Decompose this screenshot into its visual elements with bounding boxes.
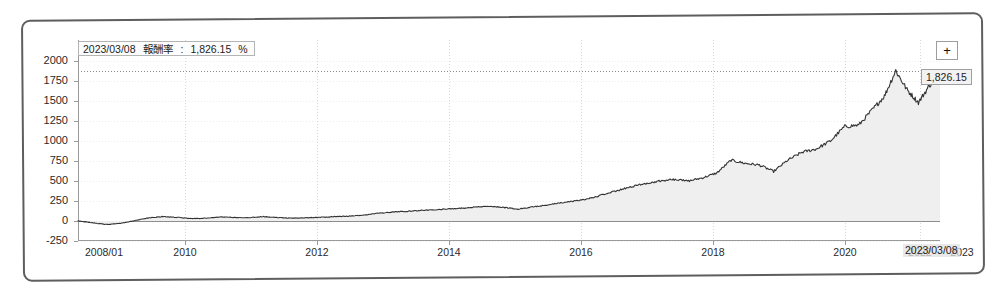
value-flag: 1,826.15 (921, 69, 972, 85)
xlabel-2012: 2012 (305, 246, 328, 258)
gridline-h-250 (78, 201, 940, 202)
ytick-750 (74, 161, 78, 162)
ylabel-2000: 2000 (28, 54, 68, 66)
xtick-2016 (581, 241, 582, 245)
xlabel-2016: 2016 (569, 246, 592, 258)
tooltip-separator: : (180, 43, 183, 56)
ylabel-1500: 1500 (28, 94, 68, 106)
gridline-h-1750 (78, 81, 940, 82)
expand-plus-icon[interactable]: + (936, 41, 958, 60)
ytick-1500 (74, 101, 78, 102)
ytick-1000 (74, 141, 78, 142)
tooltip-readout: 2023/03/08 報酬率 : 1,826.15 % (78, 41, 255, 56)
gridline-h-minus250 (78, 241, 940, 242)
gridline-h-500 (78, 181, 940, 182)
xlabel-2020: 2020 (833, 246, 856, 258)
ytick-250 (74, 201, 78, 202)
gridline-h-1000 (78, 141, 940, 142)
gridline-v-2020 (845, 40, 846, 240)
ylabel-0: 0 (28, 214, 68, 226)
ytick-2000 (74, 61, 78, 62)
ytick-1750 (74, 81, 78, 82)
y-axis (78, 40, 79, 240)
xtick-2014 (449, 241, 450, 245)
xlabel-2008-01: 2008/01 (85, 246, 123, 258)
xtick-2010 (185, 241, 186, 245)
xlabel-2018: 2018 (701, 246, 724, 258)
gridline-h-1500 (78, 101, 940, 102)
gridline-v-2014 (449, 40, 450, 240)
tooltip-unit: % (238, 43, 247, 56)
xlabel-2010: 2010 (173, 246, 196, 258)
ylabel-1250: 1250 (28, 114, 68, 126)
gridline-h-750 (78, 161, 940, 162)
ylabel-250: 250 (28, 194, 68, 206)
x-axis (78, 240, 940, 241)
ytick-0 (74, 221, 78, 222)
gridline-v-2016 (581, 40, 582, 240)
ylabel-500: 500 (28, 174, 68, 186)
tooltip-metric-label: 報酬率 (143, 43, 174, 56)
gridline-v-2012 (317, 40, 318, 240)
chart-stage: 2000 1750 1500 1250 1000 750 500 250 0 -… (0, 0, 1008, 305)
reference-line-1826 (78, 71, 940, 72)
ytick-minus250 (74, 241, 78, 242)
ylabel-1750: 1750 (28, 74, 68, 86)
ylabel-750: 750 (28, 154, 68, 166)
tooltip-value: 1,826.15 (190, 43, 231, 56)
xtick-2018 (713, 241, 714, 245)
date-flag: 2023/03/08 (903, 244, 960, 257)
gridline-v-2010 (185, 40, 186, 240)
xtick-2012 (317, 241, 318, 245)
xlabel-2014: 2014 (437, 246, 460, 258)
xtick-2020 (845, 241, 846, 245)
tooltip-date: 2023/03/08 (83, 43, 136, 56)
ylabel-1000: 1000 (28, 134, 68, 146)
ylabel-minus250: -250 (28, 234, 68, 246)
gridline-h-2000 (78, 61, 940, 62)
ytick-500 (74, 181, 78, 182)
ytick-1250 (74, 121, 78, 122)
gridline-h-1250 (78, 121, 940, 122)
zero-baseline (78, 221, 940, 222)
gridline-v-2018 (713, 40, 714, 240)
